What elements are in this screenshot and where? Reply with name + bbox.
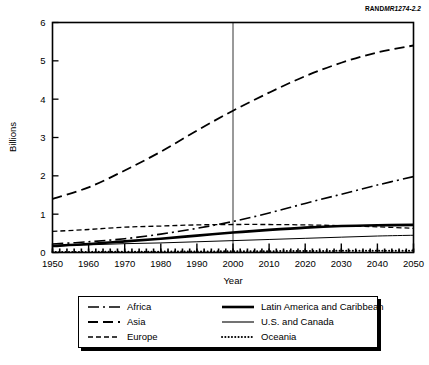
x-tick-label: 2050 — [403, 258, 424, 269]
x-tick-label: 2010 — [259, 258, 280, 269]
y-tick-label: 4 — [40, 94, 45, 105]
legend-swatch-thin-solid-icon — [221, 317, 255, 327]
x-tick-label: 1970 — [114, 258, 135, 269]
x-tick-label: 1990 — [186, 258, 207, 269]
legend-item[interactable]: Asia — [87, 315, 221, 329]
legend-label: Asia — [127, 317, 145, 327]
y-tick-label: 6 — [40, 17, 45, 28]
legend-label: Latin America and Caribbean — [261, 302, 384, 312]
population-projection-figure: RANDMR1274-2.2 0123456 19501960197019801… — [0, 0, 429, 365]
legend-items: AfricaLatin America and CaribbeanAsiaU.S… — [79, 297, 377, 347]
y-tick-label: 5 — [40, 55, 45, 66]
x-tick-label: 2030 — [331, 258, 352, 269]
legend-swatch-dash-dot-icon — [87, 302, 121, 312]
legend-item[interactable]: Europe — [87, 330, 221, 344]
line-chart: 0123456 19501960197019801990200020102020… — [0, 0, 429, 292]
legend-label: Oceania — [261, 332, 296, 342]
legend-item[interactable]: Oceania — [221, 330, 384, 344]
y-tick-label: 0 — [40, 247, 45, 258]
legend-item[interactable]: Africa — [87, 300, 221, 314]
x-tick-label: 2040 — [367, 258, 388, 269]
legend-item[interactable]: Latin America and Caribbean — [221, 300, 384, 314]
y-tick-label: 2 — [40, 170, 45, 181]
x-tick-label: 1980 — [150, 258, 171, 269]
legend-item[interactable]: U.S. and Canada — [221, 315, 384, 329]
x-tick-label: 2020 — [295, 258, 316, 269]
x-tick-label: 1950 — [42, 258, 63, 269]
y-tick-label: 1 — [40, 209, 45, 220]
x-axis-title: Year — [223, 275, 242, 286]
legend-swatch-short-dash-icon — [87, 332, 121, 342]
x-axis-tick-labels: 1950196019701980199020002010202020302040… — [42, 258, 424, 269]
y-axis-tick-labels: 0123456 — [40, 17, 45, 258]
legend-swatch-long-dash-icon — [87, 317, 121, 327]
x-tick-label: 1960 — [78, 258, 99, 269]
x-tick-label: 2000 — [222, 258, 243, 269]
legend-label: Africa — [127, 302, 151, 312]
legend-swatch-dotted-icon — [221, 332, 255, 342]
y-axis-title: Billions — [7, 122, 18, 152]
legend-label: U.S. and Canada — [261, 317, 334, 327]
legend-swatch-thick-solid-icon — [221, 302, 255, 312]
legend: AfricaLatin America and CaribbeanAsiaU.S… — [78, 296, 378, 348]
legend-label: Europe — [127, 332, 158, 342]
y-tick-label: 3 — [40, 132, 45, 143]
